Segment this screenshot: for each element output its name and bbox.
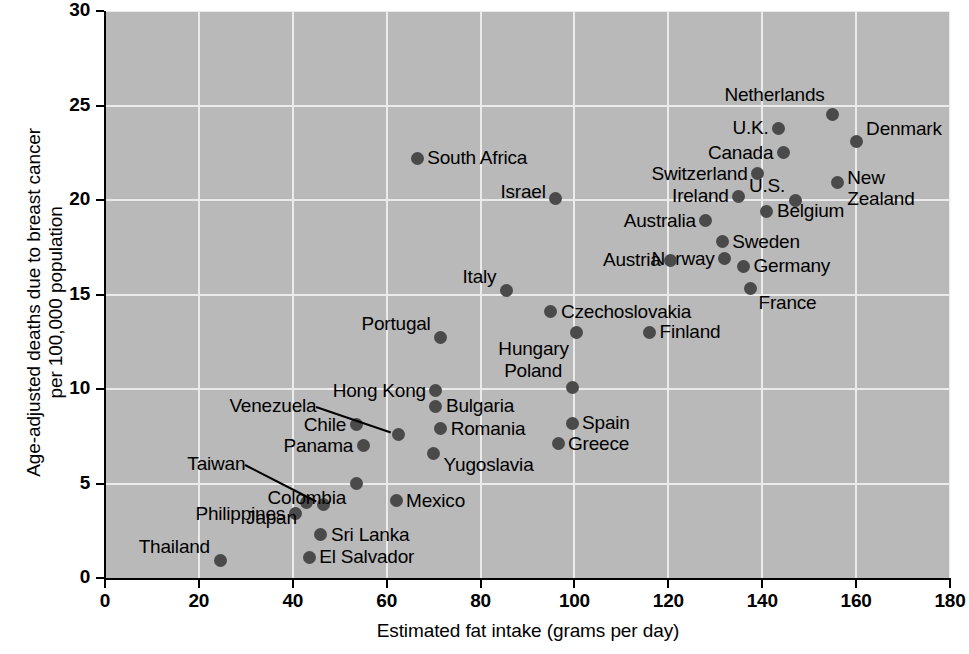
- data-point-label: Belgium: [777, 201, 844, 222]
- x-tick-label: 180: [920, 590, 969, 612]
- data-point[interactable]: [314, 528, 327, 541]
- data-point-label: Canada: [708, 142, 773, 163]
- data-point-label: Venezuela: [229, 396, 316, 417]
- x-tick-mark: [386, 580, 388, 588]
- x-tick-mark: [667, 580, 669, 588]
- data-point[interactable]: [357, 439, 370, 452]
- data-point[interactable]: [643, 326, 656, 339]
- data-point[interactable]: [429, 400, 442, 413]
- data-point-label: New Zealand: [847, 168, 914, 210]
- data-point[interactable]: [549, 192, 562, 205]
- x-tick-label: 20: [169, 590, 229, 612]
- data-point[interactable]: [716, 235, 729, 248]
- y-tick-mark: [96, 10, 104, 12]
- gridline-horizontal: [105, 294, 950, 296]
- data-point-label: South Africa: [427, 148, 527, 169]
- x-axis-line: [105, 578, 951, 580]
- data-point-label: Hungary: [498, 339, 568, 360]
- x-tick-mark: [104, 580, 106, 588]
- data-point[interactable]: [772, 122, 785, 135]
- data-point[interactable]: [751, 167, 764, 180]
- data-point[interactable]: [789, 194, 802, 207]
- data-point[interactable]: [552, 437, 565, 450]
- x-tick-mark: [198, 580, 200, 588]
- x-tick-mark: [855, 580, 857, 588]
- x-tick-label: 140: [732, 590, 792, 612]
- x-tick-mark: [480, 580, 482, 588]
- data-point-label: Germany: [753, 256, 830, 277]
- y-tick-mark: [96, 105, 104, 107]
- data-point-label: Greece: [568, 433, 629, 454]
- x-tick-mark: [292, 580, 294, 588]
- data-point-label: Italy: [463, 266, 497, 287]
- data-point[interactable]: [392, 428, 405, 441]
- x-tick-mark: [949, 580, 951, 588]
- data-point[interactable]: [777, 146, 790, 159]
- data-point[interactable]: [699, 214, 712, 227]
- data-point[interactable]: [214, 554, 227, 567]
- data-point[interactable]: [732, 190, 745, 203]
- data-point[interactable]: [850, 135, 863, 148]
- data-point-label: Czechoslovakia: [561, 301, 691, 322]
- y-tick-mark: [96, 294, 104, 296]
- data-point[interactable]: [303, 551, 316, 564]
- y-axis-label-line-2: per 100,000 population: [45, 2, 67, 602]
- x-axis-label: Estimated fat intake (grams per day): [105, 620, 951, 642]
- y-axis-label-line-1: Age-adjusted deaths due to breast cancer: [23, 2, 45, 602]
- data-point-label: U.K.: [732, 118, 768, 139]
- y-tick-mark: [96, 388, 104, 390]
- plot-area: ThailandEl SalvadorSri LankaPhilippinesJ…: [105, 11, 950, 578]
- data-point[interactable]: [566, 381, 579, 394]
- data-point-label: Ireland: [672, 186, 729, 207]
- data-point-label: Chile: [304, 414, 346, 435]
- data-point-label: Sweden: [732, 231, 799, 252]
- data-point-label: Thailand: [139, 537, 210, 558]
- data-point[interactable]: [566, 417, 579, 430]
- x-tick-label: 40: [263, 590, 323, 612]
- y-axis-label: Age-adjusted deaths due to breast cancer…: [23, 2, 68, 602]
- x-tick-label: 0: [75, 590, 135, 612]
- data-point-label: Poland: [504, 361, 562, 382]
- data-point[interactable]: [544, 305, 557, 318]
- gridline-horizontal: [105, 388, 950, 390]
- x-tick-mark: [761, 580, 763, 588]
- y-tick-mark: [96, 199, 104, 201]
- scatter-plot-figure: ThailandEl SalvadorSri LankaPhilippinesJ…: [0, 0, 969, 654]
- data-point-label: Portugal: [361, 314, 430, 335]
- data-point[interactable]: [427, 447, 440, 460]
- x-tick-label: 120: [638, 590, 698, 612]
- data-point-label: Netherlands: [724, 84, 824, 105]
- data-point[interactable]: [831, 176, 844, 189]
- x-tick-label: 80: [451, 590, 511, 612]
- data-point[interactable]: [737, 260, 750, 273]
- data-point[interactable]: [826, 108, 839, 121]
- data-point-label: France: [758, 292, 816, 313]
- data-point-label: Switzerland: [652, 163, 748, 184]
- data-point[interactable]: [350, 477, 363, 490]
- gridline-horizontal: [105, 483, 950, 485]
- data-point-label: Spain: [582, 413, 630, 434]
- data-point-label: Finland: [660, 322, 721, 343]
- data-point[interactable]: [434, 331, 447, 344]
- data-point-label: Colombia: [267, 487, 346, 508]
- x-tick-mark: [573, 580, 575, 588]
- data-point[interactable]: [718, 252, 731, 265]
- data-point-label: Yugoslavia: [444, 455, 534, 476]
- data-point[interactable]: [570, 326, 583, 339]
- data-point[interactable]: [390, 494, 403, 507]
- y-tick-mark: [96, 577, 104, 579]
- data-point[interactable]: [429, 384, 442, 397]
- data-point-label: Austria: [603, 250, 661, 271]
- data-point[interactable]: [411, 152, 424, 165]
- y-tick-mark: [96, 483, 104, 485]
- data-point-label: Sri Lanka: [331, 524, 409, 545]
- x-tick-label: 60: [357, 590, 417, 612]
- data-point-label: Romania: [451, 418, 526, 439]
- y-axis-line: [104, 11, 106, 580]
- data-point-label: Panama: [284, 435, 354, 456]
- data-point-label: Australia: [624, 210, 696, 231]
- x-tick-label: 160: [826, 590, 886, 612]
- data-point[interactable]: [434, 422, 447, 435]
- data-point[interactable]: [760, 205, 773, 218]
- data-point-label: Denmark: [866, 119, 942, 140]
